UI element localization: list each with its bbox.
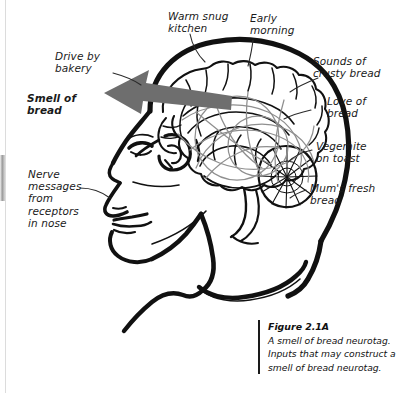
- label-drive-by-bakery: Drive by bakery: [55, 50, 117, 74]
- label-mums-fresh-bread: Mum's fresh bread: [310, 182, 390, 206]
- figure-caption-text: A smell of bread neurotag. Inputs that m…: [268, 334, 396, 374]
- label-nerve-messages: Nerve messages from receptors in nose: [28, 168, 98, 229]
- label-smell-of-bread: Smell of bread: [27, 92, 99, 116]
- figure-caption: Figure 2.1A A smell of bread neurotag. I…: [258, 320, 396, 374]
- label-warm-snug-kitchen: Warm snug kitchen: [168, 10, 246, 34]
- label-sounds-of-crusty-bread: Sounds of crusty bread: [313, 55, 391, 79]
- label-early-morning: Early morning: [250, 12, 312, 36]
- figure-caption-number: Figure 2.1A: [268, 320, 396, 333]
- label-love-of-bread: Love of bread: [327, 95, 389, 119]
- label-vegemite-on-toast: Vegemite on toast: [316, 140, 388, 164]
